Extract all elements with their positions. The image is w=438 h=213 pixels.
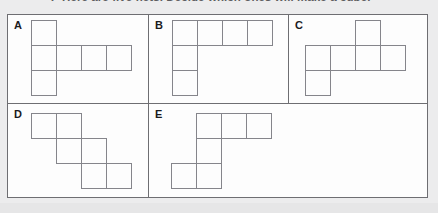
page-bottom-edge (0, 203, 438, 213)
net-panel-b[interactable]: B (149, 15, 289, 103)
net-cell (196, 138, 222, 164)
net-panel-d[interactable]: D (8, 104, 149, 197)
question-strip: 7 Here are five nets. Decide which ones … (0, 0, 438, 11)
question-text: Here are five nets. Decide which ones wi… (62, 0, 370, 3)
net-cell (247, 20, 273, 46)
net-cell (106, 163, 132, 189)
net-cell (330, 45, 356, 71)
net-cell (81, 45, 107, 71)
question-number: 7 (50, 0, 56, 3)
net-cell (31, 70, 57, 96)
net-cell (355, 45, 381, 71)
net-cell (305, 70, 331, 96)
net-cell (31, 113, 57, 139)
net-panel-e[interactable]: E (149, 104, 427, 197)
net-cell (196, 163, 222, 189)
net-cell (305, 45, 331, 71)
net-cell (31, 20, 57, 46)
net-cell (56, 138, 82, 164)
net-cell (197, 20, 223, 46)
net-cell (81, 163, 107, 189)
net-cell (221, 113, 247, 139)
net-cell (81, 138, 107, 164)
nets-row-bottom: D E (8, 104, 427, 197)
net-cell (172, 70, 198, 96)
net-panel-e-label: E (155, 109, 162, 120)
net-panel-a[interactable]: A (8, 15, 149, 103)
net-cell (172, 45, 198, 71)
net-cell (31, 45, 57, 71)
net-cell (196, 113, 222, 139)
net-cell (171, 163, 197, 189)
net-panel-a-label: A (14, 20, 22, 31)
net-cell (222, 20, 248, 46)
net-cell (56, 45, 82, 71)
net-cell (106, 45, 132, 71)
nets-row-top: A B C (8, 15, 427, 104)
net-panel-d-label: D (14, 109, 22, 120)
net-cell (56, 113, 82, 139)
nets-frame: A B C D E (7, 14, 428, 198)
net-cell (246, 113, 272, 139)
net-cell (355, 20, 381, 46)
net-cell (172, 20, 198, 46)
net-panel-c[interactable]: C (289, 15, 427, 103)
net-panel-b-label: B (155, 20, 163, 31)
net-cell (380, 45, 406, 71)
net-panel-c-label: C (295, 20, 303, 31)
